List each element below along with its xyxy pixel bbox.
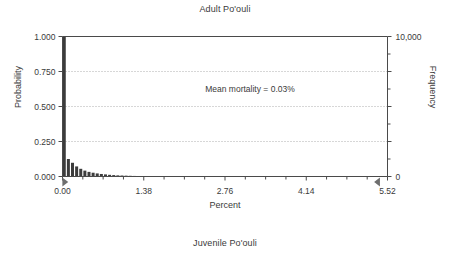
y-tick-label-left: 0.000 <box>34 172 56 182</box>
bar <box>75 166 78 176</box>
tick-marks-group <box>59 37 392 181</box>
x-tick-label: 0.00 <box>54 186 71 196</box>
y-axis-label-right: Frequency <box>428 42 438 132</box>
figure-container: Adult Po'ouli Probability Frequency Perc… <box>0 0 450 266</box>
x-tick-label: 4.14 <box>298 186 315 196</box>
y-tick-label-right: 10,000 <box>396 32 422 42</box>
bar <box>87 172 90 177</box>
chart-title: Adult Po'ouli <box>0 4 450 14</box>
y-axis-label-left: Probability <box>13 42 23 132</box>
bar <box>63 37 66 177</box>
x-tick-label: 2.76 <box>217 186 234 196</box>
upper-bound-marker <box>374 178 380 187</box>
tick-labels-group: 0.0000.2500.5000.7501.000010,0000.001.38… <box>34 32 422 196</box>
y-tick-label-left: 0.750 <box>34 67 56 77</box>
x-axis-label: Percent <box>62 200 388 210</box>
y-tick-label-left: 0.250 <box>34 137 56 147</box>
bar <box>67 159 70 177</box>
bar <box>79 169 82 177</box>
x-tick-label: 1.38 <box>135 186 152 196</box>
bar <box>83 171 86 177</box>
chart-plot-area: 0.0000.2500.5000.7501.000010,0000.001.38… <box>0 0 450 266</box>
x-tick-label: 5.52 <box>379 186 396 196</box>
bar <box>71 163 74 177</box>
y-tick-label-left: 1.000 <box>34 32 56 42</box>
y-tick-label-left: 0.500 <box>34 102 56 112</box>
gridlines-group <box>63 72 388 142</box>
y-tick-label-right: 0 <box>396 172 401 182</box>
bar <box>92 173 95 177</box>
chart-caption: Juvenile Po'ouli <box>0 238 450 248</box>
mean-mortality-annotation: Mean mortality = 0.03% <box>150 84 350 94</box>
